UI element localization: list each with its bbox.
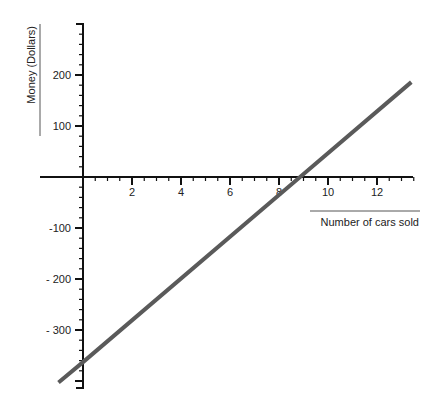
x-axis-title: Number of cars sold [321, 216, 419, 228]
profit-line [59, 82, 412, 382]
y-axis-ticks: 200100-100- 200- 300 [46, 34, 83, 381]
y-tick-label: 100 [53, 120, 71, 132]
x-tick-label: 4 [178, 186, 184, 198]
y-tick-label: 200 [53, 69, 71, 81]
y-axis-title: Money (Dollars) [25, 26, 37, 104]
x-tick-label: 10 [322, 186, 334, 198]
y-tick-label: - 200 [46, 273, 71, 285]
x-tick-label: 12 [371, 186, 383, 198]
y-tick-label: -100 [49, 222, 71, 234]
y-tick-label: - 300 [46, 324, 71, 336]
x-tick-label: 2 [129, 186, 135, 198]
x-tick-label: 6 [227, 186, 233, 198]
x-axis-ticks: 24681012 [95, 177, 414, 198]
chart: 200100-100- 200- 300 24681012 Money (Dol… [0, 0, 440, 406]
